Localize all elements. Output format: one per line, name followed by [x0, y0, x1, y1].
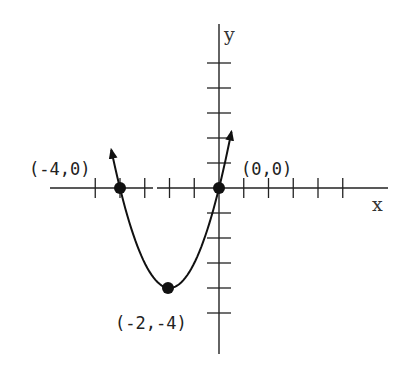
parabola-curve	[111, 132, 231, 288]
point-origin-label: (0,0)	[241, 159, 292, 179]
point-left-label: (-4,0)	[29, 159, 90, 179]
point-vertex	[162, 282, 174, 294]
x-axis-label: x	[372, 193, 383, 215]
point-origin	[213, 182, 225, 194]
y-axis-label: y	[223, 23, 235, 45]
parabola-graph: y x (-4,0) (0,0) (-2,-4)	[0, 0, 403, 368]
point-vertex-label: (-2,-4)	[115, 313, 187, 333]
point-x-intercept-left	[114, 182, 126, 194]
